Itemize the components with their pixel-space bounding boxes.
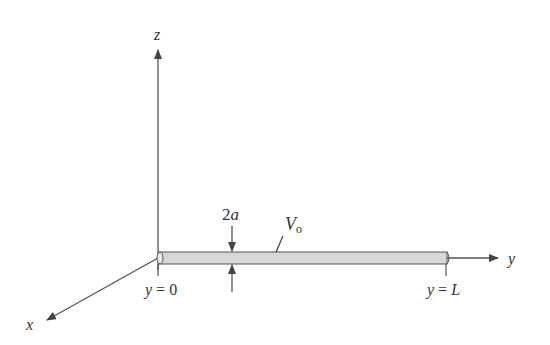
wire-cylinder xyxy=(157,252,449,264)
z-axis: z xyxy=(153,26,161,270)
coaxial-wire-diagram: z y x 2a Vo y = 0 y = L xyxy=(0,0,550,345)
y-zero-label: y = 0 xyxy=(143,281,177,299)
y-axis: y xyxy=(447,250,516,268)
x-axis-label: x xyxy=(25,316,33,333)
voltage-label: Vo xyxy=(285,214,302,236)
diameter-label: 2a xyxy=(222,205,239,224)
z-axis-label: z xyxy=(153,26,161,43)
voltage-annotation: Vo xyxy=(276,214,302,252)
y-axis-label: y xyxy=(506,250,516,268)
y-length-label: y = L xyxy=(425,281,460,299)
x-axis: x xyxy=(25,258,158,333)
diameter-dimension: 2a xyxy=(222,205,239,292)
